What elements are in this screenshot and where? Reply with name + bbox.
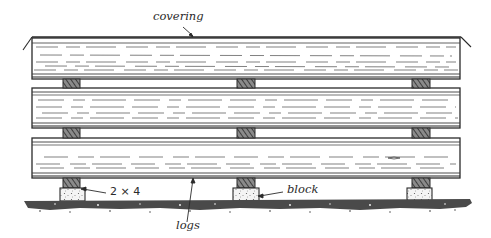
label-2x4: 2 × 4 (110, 186, 140, 197)
label-covering: covering (153, 11, 204, 23)
log-storage-diagram (0, 0, 491, 238)
middle-log (32, 88, 460, 128)
label-logs: logs (176, 220, 200, 232)
label-block: block (287, 184, 318, 196)
top-log (32, 38, 460, 79)
ground (24, 199, 472, 213)
bottom-log (32, 138, 460, 178)
